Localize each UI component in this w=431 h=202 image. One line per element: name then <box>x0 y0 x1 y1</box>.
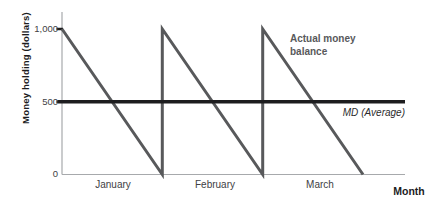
actual-money-balance-label-line2: balance <box>290 45 356 58</box>
y-tick-label-1000: 1,000 <box>18 24 58 34</box>
plot-area <box>0 0 431 202</box>
md-average-suffix-text: (Average) <box>361 107 405 118</box>
actual-money-balance-label-line1: Actual money <box>290 32 356 45</box>
x-label-january: January <box>95 179 131 190</box>
md-variable-text: MD <box>343 107 359 118</box>
y-tick-label-500: 500 <box>18 97 58 107</box>
y-tick-label-0: 0 <box>18 169 58 179</box>
x-label-march: March <box>306 179 334 190</box>
x-label-february: February <box>195 179 235 190</box>
actual-money-balance-label: Actual money balance <box>290 32 356 58</box>
money-holding-chart: Money holding (dollars) 1,000 500 0 Janu… <box>0 0 431 202</box>
x-axis-title: Month <box>393 185 425 197</box>
md-average-label: MD(Average) <box>305 107 405 118</box>
